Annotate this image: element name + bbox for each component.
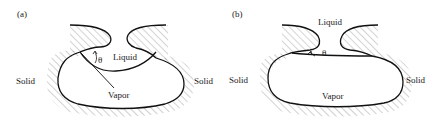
solid-left-label-b: Solid — [229, 75, 249, 85]
angle-arc-a — [95, 52, 97, 63]
panel-a-label: (a) — [17, 9, 27, 19]
solid-hatching-b — [260, 25, 412, 117]
solid-right-label-b: Solid — [406, 75, 426, 85]
liquid-label-a: Liquid — [113, 52, 137, 62]
cavity-diagram: (a) θ Liquid Vapor Solid Solid — [0, 0, 445, 121]
panel-b-label: (b) — [232, 9, 243, 19]
solid-left-label-a: Solid — [16, 76, 36, 86]
panel-b: (b) θ Liquid Vapor Solid Solid — [229, 9, 426, 117]
liquid-label-b: Liquid — [318, 17, 342, 27]
vapor-label-a: Vapor — [108, 90, 130, 100]
theta-label-b: θ — [322, 48, 326, 58]
panel-a: (a) θ Liquid Vapor Solid Solid — [16, 9, 214, 117]
meniscus-b — [292, 53, 372, 56]
theta-label-a: θ — [98, 55, 102, 65]
vapor-label-b: Vapor — [322, 91, 344, 101]
solid-right-label-a: Solid — [194, 76, 214, 86]
